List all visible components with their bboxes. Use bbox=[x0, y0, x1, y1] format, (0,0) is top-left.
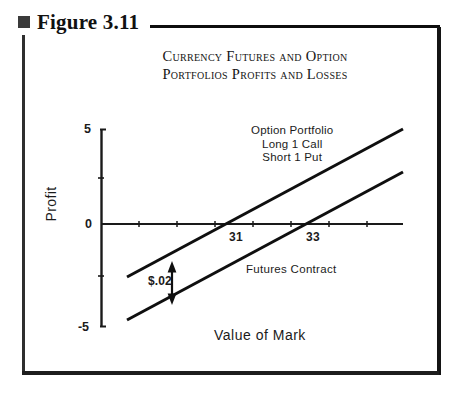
chart-title-line-2: Portfolios Profits and Losses bbox=[110, 65, 400, 83]
y-tick-label-0: 0 bbox=[85, 217, 92, 231]
futures-contract-annotation: Futures Contract bbox=[246, 263, 336, 275]
option-portfolio-line-2: Long 1 Call bbox=[251, 138, 333, 152]
x-tick-label-33: 33 bbox=[306, 230, 320, 244]
series-line-futures-contract bbox=[127, 172, 403, 320]
option-portfolio-annotation: Option Portfolio Long 1 Call Short 1 Put bbox=[251, 124, 333, 165]
chart-title-line-1: Currency Futures and Option bbox=[110, 47, 400, 65]
x-axis-title: Value of Mark bbox=[214, 327, 306, 343]
option-portfolio-line-3: Short 1 Put bbox=[251, 151, 333, 165]
filled-square-bullet-icon bbox=[18, 16, 30, 28]
y-axis-title: Profit bbox=[43, 186, 59, 221]
figure-header: Figure 3.11 bbox=[18, 9, 145, 35]
figure-container: Figure 3.11 Currency Futures and Option … bbox=[0, 0, 462, 397]
chart-title: Currency Futures and Option Portfolios P… bbox=[110, 47, 400, 83]
spread-value-annotation: $.02 bbox=[148, 274, 172, 288]
frame-right-rule bbox=[437, 27, 441, 375]
x-tick-label-31: 31 bbox=[229, 230, 243, 244]
y-tick-label-5: 5 bbox=[84, 122, 91, 136]
frame-left-rule bbox=[22, 32, 25, 375]
option-portfolio-line-1: Option Portfolio bbox=[251, 124, 333, 138]
frame-bottom-rule bbox=[22, 371, 439, 375]
figure-caption: Figure 3.11 bbox=[37, 12, 139, 33]
frame-top-rule bbox=[150, 25, 440, 28]
y-tick-label-minus-5: -5 bbox=[78, 320, 89, 334]
